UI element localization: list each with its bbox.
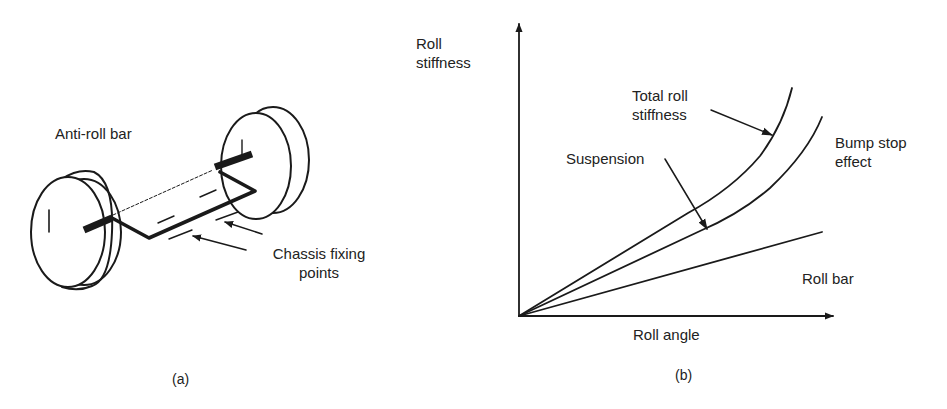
suspension-label: Suspension	[566, 149, 644, 168]
total-roll-stiffness-label: Total roll stiffness	[632, 86, 688, 124]
caption-a: (a)	[172, 370, 189, 389]
chassis-label-line2: points	[258, 263, 380, 282]
roll-bar-label: Roll bar	[802, 269, 854, 288]
figure-canvas	[0, 0, 947, 409]
roll-stiffness-graph	[519, 24, 833, 316]
y-axis-label-line2: stiffness	[416, 53, 471, 72]
chassis-arrow-2	[225, 222, 262, 234]
chassis-arrow-1	[193, 236, 246, 250]
x-axis-label: Roll angle	[633, 325, 700, 344]
axle-dashed-line	[113, 170, 213, 215]
total-label-line2: stiffness	[632, 105, 688, 124]
chassis-fixing-points-label: Chassis fixing points	[258, 244, 380, 282]
bump-label-line2: effect	[835, 152, 907, 171]
y-axis-label-line1: Roll	[416, 34, 471, 53]
left-wheel	[31, 171, 121, 289]
caption-b: (b)	[675, 366, 692, 385]
total-label-line1: Total roll	[632, 86, 688, 105]
chassis-label-line1: Chassis fixing	[258, 244, 380, 263]
bump-stop-effect-label: Bump stop effect	[835, 133, 907, 171]
suspension-curve	[519, 117, 822, 316]
bump-label-line1: Bump stop	[835, 133, 907, 152]
y-axis-label: Roll stiffness	[416, 34, 471, 72]
suspension-arrow	[665, 159, 707, 229]
anti-roll-bar-label: Anti-roll bar	[55, 124, 132, 143]
total-stiffness-arrow	[711, 110, 772, 135]
